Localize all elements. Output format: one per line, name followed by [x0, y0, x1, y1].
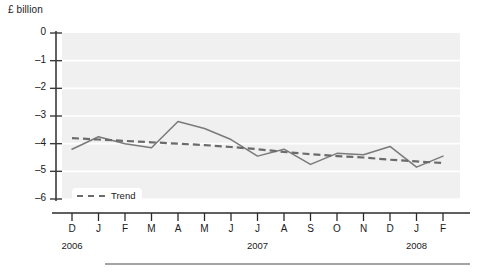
chart-legend: Trend: [72, 188, 142, 203]
x-axis-year-label: 2008: [397, 240, 437, 251]
x-axis-tick-marks: [72, 213, 443, 221]
x-axis-tick-label: J: [88, 223, 110, 234]
y-axis-tick-label: –5: [20, 164, 46, 175]
x-axis-tick-label: F: [114, 223, 136, 234]
x-axis-tick-label: S: [300, 223, 322, 234]
x-axis-tick-label: O: [326, 223, 348, 234]
y-axis-tick-label: –1: [20, 54, 46, 65]
legend-label-trend: Trend: [111, 190, 135, 201]
x-axis-tick-label: J: [247, 223, 269, 234]
x-axis-year-label: 2006: [52, 240, 92, 251]
x-axis-tick-label: M: [194, 223, 216, 234]
x-axis-tick-label: D: [379, 223, 401, 234]
y-axis-tick-label: 0: [20, 26, 46, 37]
x-axis-year-label: 2007: [238, 240, 278, 251]
x-axis-tick-label: J: [220, 223, 242, 234]
y-axis-tick-label: –4: [20, 137, 46, 148]
x-axis-tick-label: F: [432, 223, 454, 234]
y-axis-tick-label: –6: [20, 192, 46, 203]
x-axis-tick-label: J: [406, 223, 428, 234]
x-axis-tick-label: N: [353, 223, 375, 234]
x-axis-tick-label: M: [141, 223, 163, 234]
x-axis-tick-label: A: [273, 223, 295, 234]
x-axis-tick-label: D: [61, 223, 83, 234]
legend-dash-icon: [77, 195, 105, 197]
y-axis-tick-label: –2: [20, 81, 46, 92]
x-axis-tick-label: A: [167, 223, 189, 234]
y-axis-tick-label: –3: [20, 109, 46, 120]
